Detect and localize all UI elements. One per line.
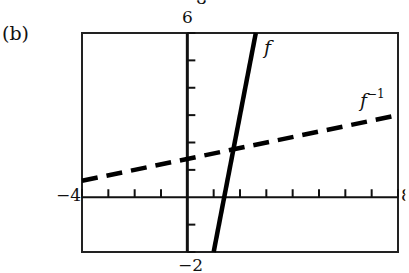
f-inverse-base: f [360,89,367,111]
plot-frame [82,33,398,252]
f-curve-label: f [264,38,271,57]
plot-area [0,0,409,273]
f-line [214,33,256,252]
f-inverse-curve-label: f−1 [360,88,385,110]
f-inverse-exponent: −1 [367,87,385,101]
